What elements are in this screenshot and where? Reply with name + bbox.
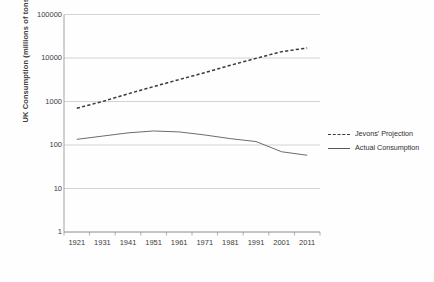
x-tick-label: 2001 xyxy=(273,238,290,247)
x-tick-label: 1951 xyxy=(145,238,162,247)
series-line-actual xyxy=(77,131,307,155)
x-tick-label: 1981 xyxy=(222,238,239,247)
x-tick-label: 1921 xyxy=(68,238,85,247)
chart-container: UK Consumption (millions of tons) 100000… xyxy=(0,0,434,282)
x-tick-label: 1971 xyxy=(196,238,213,247)
x-tick-label: 1931 xyxy=(94,238,111,247)
legend-solid-line-icon xyxy=(328,148,350,149)
x-tick-label: 1941 xyxy=(120,238,137,247)
legend-item-projection: Jevons' Projection xyxy=(328,128,432,140)
x-tick-label: 1991 xyxy=(248,238,265,247)
legend-dashed-line-icon xyxy=(328,134,350,135)
legend-label-actual: Actual Consumption xyxy=(355,142,419,154)
series-line-projection xyxy=(77,48,307,108)
legend-label-projection: Jevons' Projection xyxy=(355,128,413,140)
legend-item-actual: Actual Consumption xyxy=(328,142,432,154)
x-tick-label: 2011 xyxy=(299,238,315,247)
corner-watermark: · xyxy=(406,268,416,276)
x-tick-label: 1961 xyxy=(171,238,188,247)
chart-legend: Jevons' Projection Actual Consumption xyxy=(328,128,432,156)
